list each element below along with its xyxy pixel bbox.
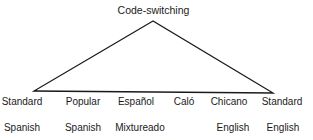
- variety-espanol-mixtureado-line2: Mixtureado: [115, 122, 164, 133]
- variety-standard-spanish-line1: Standard: [2, 96, 43, 107]
- variety-espanol-mixtureado-line1: Español: [118, 96, 154, 107]
- variety-standard-english-line2: English: [267, 122, 300, 133]
- continuum-triangle: [0, 0, 313, 140]
- variety-chicano-english-line1: Chicano: [211, 96, 248, 107]
- variety-popular-spanish-line1: Popular: [66, 96, 100, 107]
- variety-chicano-english-line2: English: [217, 122, 250, 133]
- triangle-shape: [34, 21, 273, 93]
- variety-popular-spanish-line2: Spanish: [65, 122, 101, 133]
- variety-calo-line1: Caló: [174, 96, 195, 107]
- variety-standard-english-line1: Standard: [262, 96, 303, 107]
- variety-standard-spanish-line2: Spanish: [4, 122, 40, 133]
